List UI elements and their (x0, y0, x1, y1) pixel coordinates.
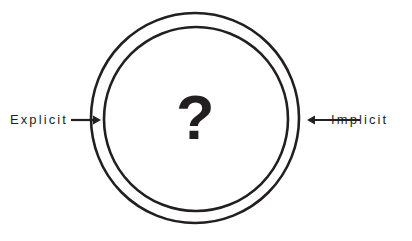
implicit-label: Implicit (331, 113, 388, 126)
diagram-canvas: ? Explicit Implicit (0, 0, 412, 241)
explicit-label: Explicit (10, 113, 68, 126)
question-mark-glyph: ? (176, 86, 214, 149)
arrow-right-icon (71, 115, 101, 124)
